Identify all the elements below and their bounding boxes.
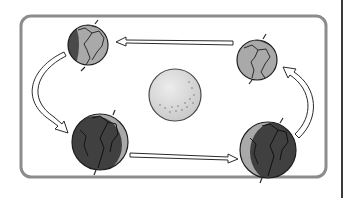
orbit-diagram	[0, 0, 350, 198]
earth-globe-top-right	[237, 34, 279, 84]
earth-globe-bottom-right	[240, 118, 302, 183]
left-arrow	[32, 52, 68, 133]
right-arrow	[283, 67, 313, 138]
sun	[149, 69, 201, 121]
page-edge-line	[341, 0, 343, 198]
earth-globe-bottom-left	[68, 110, 128, 175]
bottom-arrow	[130, 153, 238, 163]
top-arrow	[116, 37, 233, 46]
earth-globe-top-left	[65, 20, 108, 71]
